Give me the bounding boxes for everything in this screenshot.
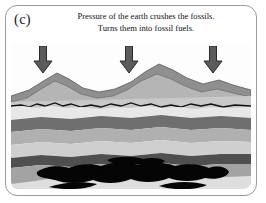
caption-line-1: Pressure of the earth crushes the fossil… (40, 11, 252, 23)
caption-line-2: Turns them into fossil fuels. (40, 23, 252, 35)
panel-letter: (c) (14, 11, 31, 28)
caption-area: (c) Pressure of the earth crushes the fo… (6, 9, 254, 41)
caption-text: Pressure of the earth crushes the fossil… (40, 11, 252, 34)
illustration-area (11, 44, 251, 189)
earth-cross-section-svg (11, 44, 251, 189)
figure-panel: (c) Pressure of the earth crushes the fo… (0, 0, 266, 203)
